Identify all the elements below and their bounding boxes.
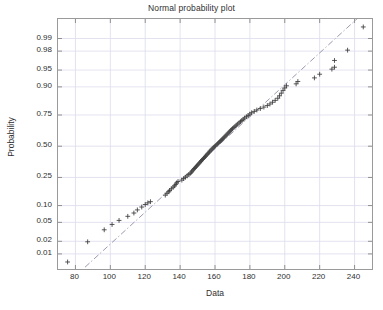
x-axis-label: Data	[57, 288, 373, 298]
x-tick-label: 220	[304, 273, 334, 281]
x-tick-label: 200	[269, 273, 299, 281]
x-tick-label: 120	[129, 273, 159, 281]
x-tick-label: 180	[234, 273, 264, 281]
x-tick-label: 140	[164, 273, 194, 281]
x-tick-label: 100	[94, 273, 124, 281]
x-axis-tick-labels: 80100120140160180200220240	[0, 0, 383, 310]
x-tick-label: 80	[59, 273, 89, 281]
x-tick-label: 240	[339, 273, 369, 281]
chart-figure: Normal probability plot Probability 0.01…	[0, 0, 383, 310]
x-tick-label: 160	[199, 273, 229, 281]
